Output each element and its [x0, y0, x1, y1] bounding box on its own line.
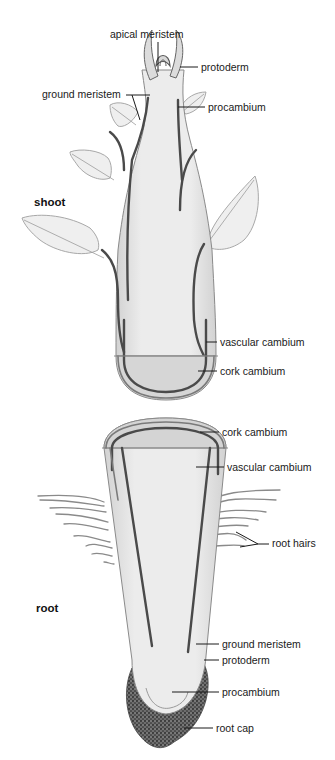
- label-vascular-cambium-root: vascular cambium: [227, 461, 312, 473]
- label-cork-cambium-root: cork cambium: [222, 426, 288, 438]
- leaf-lower-right: [206, 176, 258, 249]
- leader-root-hairs: [236, 532, 258, 544]
- shoot-diagram: shoot apical meristem protoderm ground m…: [22, 28, 305, 400]
- label-root-cap: root cap: [216, 722, 254, 734]
- label-ground-meristem-root: ground meristem: [222, 638, 301, 650]
- plant-growth-diagram: shoot apical meristem protoderm ground m…: [0, 0, 335, 760]
- label-apical-meristem: apical meristem: [110, 28, 184, 40]
- label-ground-meristem-shoot: ground meristem: [42, 88, 121, 100]
- label-protoderm-root: protoderm: [222, 654, 270, 666]
- leaf-lower-left: [22, 215, 99, 253]
- label-procambium-shoot: procambium: [208, 101, 266, 113]
- leaf-trace-upper-left: [110, 132, 124, 170]
- label-root-hairs: root hairs: [272, 537, 316, 549]
- root-title: root: [36, 602, 59, 614]
- label-vascular-cambium-shoot: vascular cambium: [220, 336, 305, 348]
- label-procambium-root: procambium: [222, 686, 280, 698]
- label-protoderm-shoot: protoderm: [201, 61, 249, 73]
- shoot-title: shoot: [34, 196, 65, 208]
- root-hairs-left: [38, 495, 114, 564]
- root-diagram: root cork cambium vascular cambium root …: [36, 418, 316, 748]
- label-cork-cambium-shoot: cork cambium: [220, 365, 286, 377]
